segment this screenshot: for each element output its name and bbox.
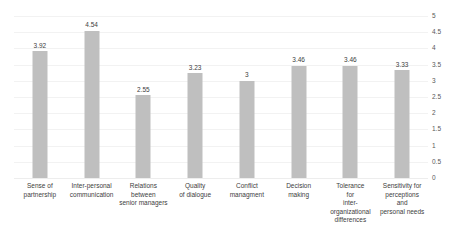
bar-group: 3.92 bbox=[14, 16, 66, 178]
category-label-line: organizational bbox=[325, 208, 377, 217]
x-axis-category-label: Sense ofpartnership bbox=[14, 182, 66, 199]
y-axis: 00.511.522.533.544.55 bbox=[432, 0, 460, 238]
category-label-line: Sensitivity for bbox=[376, 182, 428, 191]
y-axis-tick-label: 0.5 bbox=[432, 158, 441, 166]
bar[interactable] bbox=[395, 70, 410, 178]
x-axis-category-labels: Sense ofpartnershipInter-personalcommuni… bbox=[14, 182, 428, 238]
category-label-line: senior managers bbox=[118, 199, 170, 208]
category-label-line: differences bbox=[325, 216, 377, 225]
bar-group: 3.23 bbox=[169, 16, 221, 178]
bar-value-label: 3 bbox=[245, 71, 249, 79]
bar[interactable] bbox=[343, 66, 358, 178]
category-label-line: between bbox=[118, 191, 170, 200]
bar[interactable] bbox=[32, 51, 47, 178]
x-axis-category-label: Qualityof dialogue bbox=[169, 182, 221, 199]
category-label-line: Sense of bbox=[14, 182, 66, 191]
gridline bbox=[14, 178, 428, 179]
category-label-line: communication bbox=[66, 191, 118, 200]
bar-group: 2.55 bbox=[118, 16, 170, 178]
category-label-line: personal needs bbox=[376, 208, 428, 217]
y-axis-tick-label: 0 bbox=[432, 174, 436, 182]
category-label-line: Conflict bbox=[221, 182, 273, 191]
bars-layer: 3.924.542.553.2333.463.463.33 bbox=[14, 16, 428, 178]
y-axis-tick-label: 5 bbox=[432, 12, 436, 20]
category-label-line: Decision bbox=[273, 182, 325, 191]
x-axis-category-label: Inter-personalcommunication bbox=[66, 182, 118, 199]
category-label-line: making bbox=[273, 191, 325, 200]
bar-group: 3.46 bbox=[273, 16, 325, 178]
bar-group: 3 bbox=[221, 16, 273, 178]
category-label-line: perceptions bbox=[376, 191, 428, 200]
bar-value-label: 3.46 bbox=[344, 56, 357, 64]
bar-value-label: 3.23 bbox=[189, 64, 202, 72]
category-label-line: Relations bbox=[118, 182, 170, 191]
category-label-line: Tolerance bbox=[325, 182, 377, 191]
x-axis-category-label: Sensitivity forperceptionsandpersonal ne… bbox=[376, 182, 428, 216]
bar-value-label: 3.46 bbox=[292, 56, 305, 64]
category-label-line: managment bbox=[221, 191, 273, 200]
x-axis-category-label: Conflictmanagment bbox=[221, 182, 273, 199]
category-label-line: Inter-personal bbox=[66, 182, 118, 191]
y-axis-tick-label: 3.5 bbox=[432, 61, 441, 69]
x-axis-category-label: Decisionmaking bbox=[273, 182, 325, 199]
y-axis-tick-label: 2.5 bbox=[432, 93, 441, 101]
y-axis-tick-label: 1.5 bbox=[432, 125, 441, 133]
category-label-line: inter- bbox=[325, 199, 377, 208]
category-label-line: of dialogue bbox=[169, 191, 221, 200]
y-axis-tick-label: 1 bbox=[432, 142, 436, 150]
bar[interactable] bbox=[136, 95, 151, 178]
bar-chart: 3.924.542.553.2333.463.463.33 00.511.522… bbox=[0, 0, 462, 238]
category-label-line: Quality bbox=[169, 182, 221, 191]
y-axis-tick-label: 3 bbox=[432, 77, 436, 85]
y-axis-tick-label: 2 bbox=[432, 109, 436, 117]
bar-group: 4.54 bbox=[66, 16, 118, 178]
bar-value-label: 3.33 bbox=[396, 61, 409, 69]
category-label-line: partnership bbox=[14, 191, 66, 200]
x-axis-category-label: Toleranceforinter-organizationaldifferen… bbox=[325, 182, 377, 225]
bar-group: 3.33 bbox=[376, 16, 428, 178]
bar[interactable] bbox=[84, 31, 99, 178]
bar-value-label: 3.92 bbox=[34, 42, 47, 50]
category-label-line: for bbox=[325, 191, 377, 200]
bar[interactable] bbox=[188, 73, 203, 178]
bar[interactable] bbox=[239, 81, 254, 178]
y-axis-tick-label: 4.5 bbox=[432, 28, 441, 36]
y-axis-tick-label: 4 bbox=[432, 44, 436, 52]
category-label-line: and bbox=[376, 199, 428, 208]
bar-value-label: 2.55 bbox=[137, 86, 150, 94]
bar[interactable] bbox=[291, 66, 306, 178]
bar-value-label: 4.54 bbox=[85, 21, 98, 29]
bar-group: 3.46 bbox=[325, 16, 377, 178]
x-axis-category-label: Relationsbetweensenior managers bbox=[118, 182, 170, 208]
